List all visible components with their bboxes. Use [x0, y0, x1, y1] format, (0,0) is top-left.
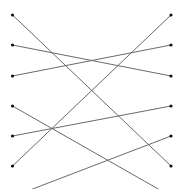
edge-offscreen-bottom-R4 — [30, 136, 171, 189]
node-R5 — [169, 164, 172, 167]
node-R1 — [169, 43, 172, 46]
edge-L3-offscreen-bottom — [13, 106, 161, 189]
node-R2 — [169, 74, 172, 77]
node-L2 — [11, 74, 14, 77]
node-L4 — [11, 134, 14, 137]
node-L0 — [11, 13, 14, 16]
node-L1 — [11, 43, 14, 46]
edge-L4-R3 — [13, 106, 172, 136]
node-L5 — [11, 164, 14, 167]
node-R3 — [169, 104, 172, 107]
node-R0 — [169, 13, 172, 16]
node-R4 — [169, 134, 172, 137]
node-L3 — [11, 104, 14, 107]
edges — [13, 15, 172, 189]
bipartite-diagram — [0, 0, 196, 189]
